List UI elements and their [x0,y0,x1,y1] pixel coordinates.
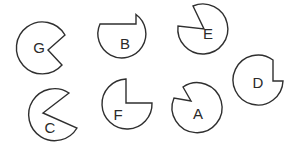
shape-e: E [178,4,228,54]
shape-g: G [16,22,65,74]
notched-circles-diagram: G B E D C F A [0,0,296,148]
shape-f: F [102,79,152,129]
shape-label: C [45,119,56,136]
shape-b: B [98,15,146,58]
shape-label: A [193,105,203,122]
shape-label: B [120,35,130,52]
shape-label: F [113,106,122,123]
shape-label: G [33,39,45,56]
shape-label: D [253,74,264,91]
shape-c: C [29,89,77,141]
shape-d: D [233,55,283,105]
shape-a: A [172,83,222,133]
shape-label: E [203,25,213,42]
notched-circle-outline [102,79,152,129]
